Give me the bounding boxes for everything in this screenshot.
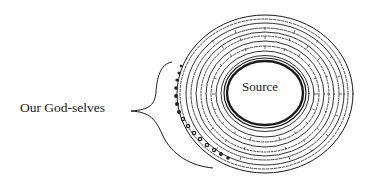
source-label: Source [242, 79, 278, 95]
brace [131, 62, 213, 168]
god-selves-beads [174, 65, 230, 160]
god-selves-label: Our God-selves [20, 100, 105, 116]
diagram-canvas: Source Our God-selves [0, 0, 373, 184]
spiral-drawing [0, 0, 373, 184]
